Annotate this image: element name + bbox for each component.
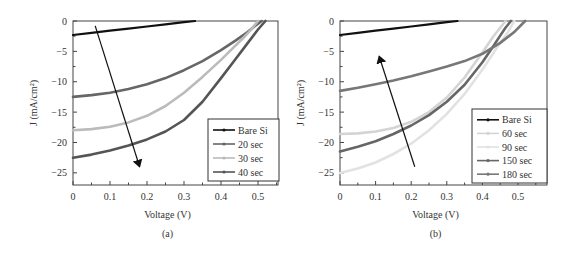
panel-label: (b) (430, 228, 442, 240)
legend-marker-icon (486, 145, 489, 148)
y-axis-title: J (mA/cm²) (28, 80, 40, 126)
legend-marker-icon (486, 159, 489, 162)
trend-arrow (379, 56, 415, 167)
x-tick-label: 0.1 (369, 191, 382, 202)
legend-label: Bare Si (502, 114, 532, 125)
x-tick-label: 0 (338, 191, 343, 202)
y-tick-label: −25 (318, 167, 334, 178)
x-tick-label: 0.3 (441, 191, 454, 202)
legend-marker-icon (222, 170, 225, 173)
panel-label: (a) (162, 228, 173, 240)
y-tick-label: −5 (323, 46, 334, 57)
legend-label: 150 sec (502, 155, 533, 166)
x-tick-label: 0.5 (252, 191, 265, 202)
legend-marker-icon (486, 132, 489, 135)
x-tick-label: 0.2 (141, 191, 154, 202)
legend-label: 20 sec (238, 139, 264, 150)
legend-marker-icon (222, 128, 225, 131)
x-tick-label: 0.4 (215, 191, 228, 202)
legend-marker-icon (486, 173, 489, 176)
legend-label: 30 sec (238, 153, 264, 164)
legend-label: Bare Si (238, 125, 268, 136)
series-line-bare-si (73, 21, 195, 35)
series-line-bare-si (340, 21, 458, 35)
trend-arrow (95, 26, 139, 167)
y-tick-label: 0 (62, 16, 67, 27)
x-tick-label: 0.1 (104, 191, 117, 202)
legend-label: 90 sec (502, 142, 528, 153)
jv-curves-figure: 00.10.20.30.40.50−5−10−15−20−25Voltage (… (0, 0, 567, 255)
y-tick-label: 0 (329, 16, 334, 27)
series-line-30-sec (73, 21, 258, 130)
chart-panel-b: 00.10.20.30.40.50−5−10−15−20−25Voltage (… (295, 16, 547, 241)
x-tick-label: 0.2 (405, 191, 418, 202)
x-axis-title: Voltage (V) (412, 209, 459, 221)
x-tick-label: 0.5 (512, 191, 525, 202)
y-tick-label: −15 (51, 107, 67, 118)
y-tick-label: −5 (56, 46, 67, 57)
chart-panel-a: 00.10.20.30.40.50−5−10−15−20−25Voltage (… (28, 16, 279, 241)
y-tick-label: −20 (318, 137, 334, 148)
y-tick-label: −25 (51, 167, 67, 178)
y-tick-label: −10 (51, 76, 67, 87)
legend-marker-icon (486, 118, 489, 121)
x-tick-label: 0.4 (476, 191, 489, 202)
x-tick-label: 0 (71, 191, 76, 202)
x-tick-label: 0.3 (178, 191, 191, 202)
legend-label: 40 sec (238, 167, 264, 178)
legend-marker-icon (222, 142, 225, 145)
y-tick-label: −10 (318, 76, 334, 87)
y-tick-label: −15 (318, 107, 334, 118)
y-tick-label: −20 (51, 137, 67, 148)
legend-label: 180 sec (502, 169, 533, 180)
x-axis-title: Voltage (V) (144, 209, 191, 221)
legend-label: 60 sec (502, 128, 528, 139)
y-axis-title: J (mA/cm²) (295, 80, 307, 126)
legend-marker-icon (222, 156, 225, 159)
